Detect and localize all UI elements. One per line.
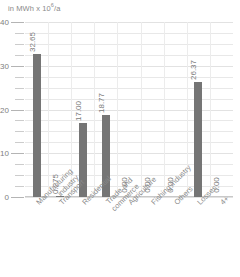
y-axis-tick [11,120,24,121]
y-axis-tick [11,33,24,34]
y-axis-tick [11,175,24,176]
x-axis-label-slot: Residential [71,199,94,277]
x-axis-label-slot: Fishing industry [141,199,164,277]
y-axis-tick [11,142,24,143]
bar-slot: 0.00 [117,22,140,197]
bar-value-label: 17.00 [74,101,83,121]
y-axis-tick-label: 30 [0,61,9,70]
bar-chart: in MWh x 106/a 010203040 32.650.27517.00… [0,0,240,277]
y-axis-tick-mark [15,175,24,176]
y-axis-tick-mark [11,66,24,67]
y-axis-tick-mark [11,22,24,23]
bar-value-label: 26.37 [189,60,198,80]
y-axis-tick [11,88,24,89]
y-axis-tick-mark [15,142,24,143]
y-axis-tick-mark [11,110,24,111]
y-axis-tick-mark [15,164,24,165]
y-axis-tick-mark [15,33,24,34]
x-axis-label-slot: Transport [48,199,71,277]
y-axis-tick-mark [15,44,24,45]
y-axis-tick-label: 40 [0,18,9,27]
x-axis-label-slot: Trade andcommerce [94,199,117,277]
y-axis-tick [11,99,24,100]
y-axis-tick-mark [11,153,24,154]
y-axis-tick-mark [11,197,24,198]
bar[interactable] [33,54,41,197]
x-axis-label-slot: Losses [187,199,210,277]
y-axis-tick-label: 0 [5,193,9,202]
y-axis-tick-mark [15,77,24,78]
x-axis-label-slot: Others [164,199,187,277]
bar-slot: 0.00 [210,22,233,197]
y-axis-tick: 30 [11,66,24,67]
y-axis-tick-mark [15,99,24,100]
y-axis-tick: 0 [11,197,24,198]
y-axis-tick: 10 [11,153,24,154]
y-axis-tick-mark [15,186,24,187]
y-axis-tick-mark [15,88,24,89]
y-axis-tick-mark [15,120,24,121]
y-axis-tick [11,77,24,78]
y-axis-tick-mark [15,131,24,132]
bars-layer: 32.650.27517.0018.770.000.000.0026.370.0… [25,22,233,197]
bar-slot: 0.00 [141,22,164,197]
x-axis-label-slot: Manufacturingindustry [25,199,48,277]
axis-unit-text: in MWh x 10 [8,4,51,13]
y-axis-tick [11,131,24,132]
plot-area: 010203040 32.650.27517.0018.770.000.000.… [25,22,233,197]
y-axis-tick: 20 [11,110,24,111]
axis-unit-label: in MWh x 106/a [8,2,60,13]
y-axis-tick-label: 10 [0,149,9,158]
bar-slot: 17.00 [71,22,94,197]
y-axis-tick-mark [15,55,24,56]
y-axis-tick [11,164,24,165]
bar-slot: 32.65 [25,22,48,197]
axis-unit-suffix: /a [54,4,60,13]
x-axis-labels: ManufacturingindustryTransportResidentia… [25,199,233,277]
bar[interactable] [194,82,202,197]
x-axis-label-slot: Agriculture [117,199,140,277]
y-axis-tick-label: 20 [0,105,9,114]
y-axis-tick [11,55,24,56]
bar-value-label: 18.77 [97,93,106,113]
bar-slot: 18.77 [94,22,117,197]
x-axis-label-slot: 4+ [210,199,233,277]
y-axis-tick [11,186,24,187]
y-axis-tick: 40 [11,22,24,23]
bar-value-label: 32.65 [28,32,37,52]
y-axis-tick [11,44,24,45]
